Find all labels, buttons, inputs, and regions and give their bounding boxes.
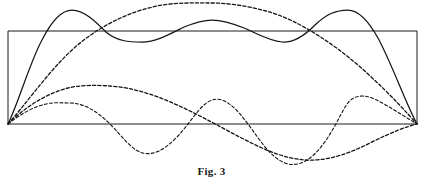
second-harmonic-curve	[8, 85, 417, 160]
resultant-curve	[8, 10, 417, 124]
bounding-rectangle	[8, 31, 417, 124]
fundamental-curve	[8, 3, 417, 124]
figure-container: Fig. 3	[0, 0, 423, 182]
figure-drawing	[0, 0, 423, 182]
figure-caption: Fig. 3	[0, 165, 423, 178]
third-harmonic-curve	[8, 96, 417, 164]
